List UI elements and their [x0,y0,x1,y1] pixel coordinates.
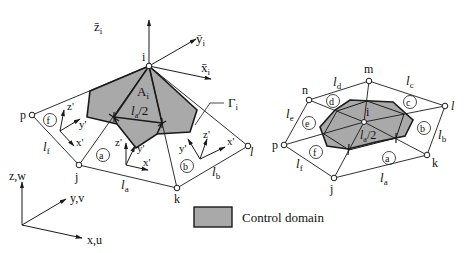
b-x-prime-label: x' [227,135,235,147]
edge-la-label: la [121,177,129,194]
right-diagram: a b c d e f i m n p j k l ld lc le lb lf… [272,62,455,196]
node-j-icon [76,162,82,168]
r-element-c-label: c [406,97,411,108]
a-x-prime-label: x' [143,156,151,168]
r-node-l-label: l [451,99,455,113]
r-edge-ld-label: ld [333,74,342,91]
y-axis-label: y,v [70,191,84,205]
node-p-icon [29,112,35,118]
node-j-label: j [74,170,78,184]
y-bar-label: ȳi [196,31,206,48]
legend-label: Control domain [242,210,324,225]
legend-swatch [194,207,232,227]
r-edge-la-label: la [380,170,388,187]
half-length-label: la/2 [131,103,148,120]
edge-lf-label: lf [43,139,50,156]
f-z-prime-label: z' [67,100,74,112]
r-node-n-label: n [302,83,308,97]
f-x-prime-label: x' [76,136,84,148]
r-node-n-icon [306,97,312,103]
y-bar-axis-arrow-icon [149,39,196,66]
node-p-label: p [20,108,26,122]
r-node-l-icon [442,103,448,109]
r-element-b-label: b [420,123,425,134]
r-half-length-label: la/2 [360,128,376,144]
element-a-label: a [99,150,104,161]
b-z-prime-label: z' [203,128,210,140]
left-diagram: z̄i ȳi x̄i i p j k l Ai la/2 Γi f a b lf… [20,19,254,206]
r-node-p-label: p [272,138,278,152]
r-element-a-label: a [385,153,390,164]
r-node-k-icon [424,152,430,158]
global-axes: z,w y,v x,u [9,169,102,247]
z-bar-label: z̄i [94,19,103,36]
r-node-k-label: k [432,156,438,170]
node-i-icon [146,63,152,69]
r-node-m-label: m [364,62,374,76]
boundary-label: Γi [228,95,239,112]
node-l-label: l [250,145,254,159]
y-axis-arrow-icon [22,199,66,225]
b-y-prime-label: y' [179,142,187,154]
r-element-d-label: d [329,96,334,107]
control-domain-diagram: z̄i ȳi x̄i i p j k l Ai la/2 Γi f a b lf… [0,0,467,253]
f-y-prime-label: y' [79,118,87,130]
x-bar-label: x̄i [201,60,211,77]
legend: Control domain [194,207,324,227]
element-axes-b [188,139,225,159]
r-element-e-label: e [305,118,310,129]
r-node-p-icon [281,142,287,148]
edge-lb-label: lb [212,164,221,181]
element-f-label: f [47,115,51,126]
r-edge-lb-label: lb [438,127,447,144]
r-node-j-label: j [329,182,333,196]
x-axis-arrow-icon [22,225,82,238]
node-i-label: i [142,50,146,64]
r-element-f-label: f [313,147,317,158]
z-axis-label: z,w [9,169,26,183]
r-edge-le-label: le [286,106,294,123]
node-k-label: k [174,192,180,206]
a-z-prime-label: z' [115,136,122,148]
r-node-i-icon [362,120,367,125]
node-k-icon [174,185,180,191]
a-y-prime-label: y' [137,142,145,154]
r-edge-lf-label: lf [296,156,303,173]
r-node-j-icon [331,175,337,181]
r-edge-lc-label: lc [406,73,414,90]
element-b-label: b [183,161,188,172]
r-node-m-icon [366,78,372,84]
x-axis-label: x,u [87,233,102,247]
